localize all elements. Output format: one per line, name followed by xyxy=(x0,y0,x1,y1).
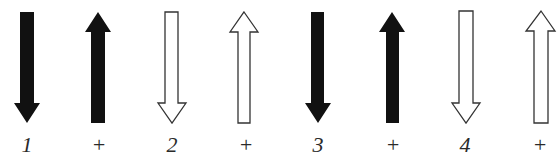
arrow-down-filled-icon xyxy=(14,12,40,123)
arrow-down-outline-icon xyxy=(452,11,480,123)
arrow-down-outline-icon xyxy=(158,12,186,123)
label-plus: + xyxy=(84,133,114,157)
label-2: 2 xyxy=(157,133,187,157)
label-3: 3 xyxy=(303,133,333,157)
label-plus: + xyxy=(525,133,555,157)
arrow-up-outline-icon xyxy=(230,12,258,123)
label-4: 4 xyxy=(450,133,480,157)
label-plus: + xyxy=(378,133,408,157)
arrow-up-filled-icon xyxy=(85,12,111,123)
arrow-up-filled-icon xyxy=(379,12,405,123)
label-1: 1 xyxy=(12,133,42,157)
label-plus: + xyxy=(231,133,261,157)
arrow-up-outline-icon xyxy=(526,11,555,123)
arrow-down-filled-icon xyxy=(305,12,331,123)
